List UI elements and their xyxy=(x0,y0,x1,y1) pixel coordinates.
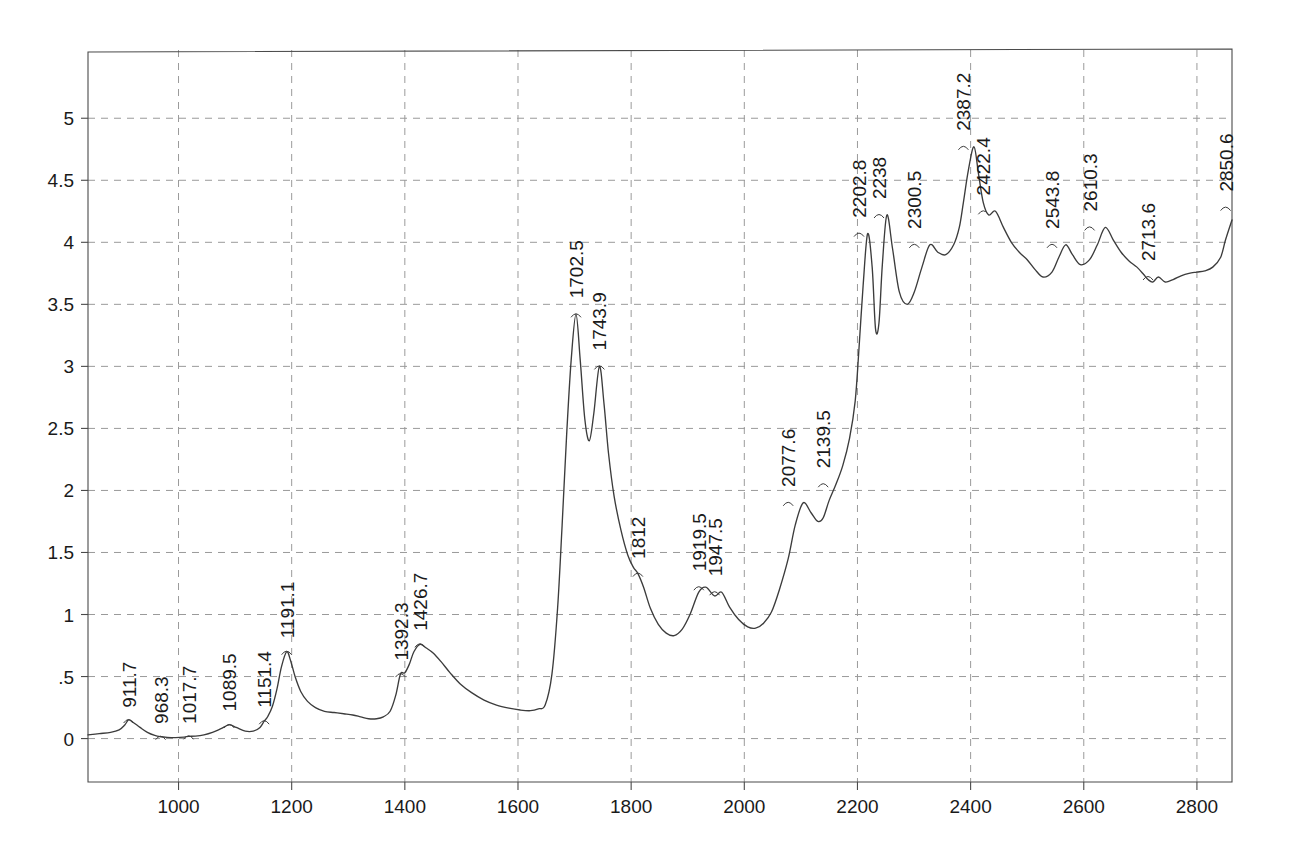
y-tick-label: 3 xyxy=(63,356,74,377)
peak-leader xyxy=(958,146,968,150)
peak-label: 2610.3 xyxy=(1080,153,1101,211)
y-tick-label: 1 xyxy=(63,605,74,626)
spectrum-plot: 0.511.522.533.544.55 1000120014001600180… xyxy=(0,0,1290,849)
spectrum-trace xyxy=(88,147,1232,738)
peak-label: 911.7 xyxy=(119,662,140,708)
x-tick-label: 2600 xyxy=(1063,796,1105,817)
x-tick-label: 2800 xyxy=(1176,796,1218,817)
y-tick-label: 3.5 xyxy=(48,294,74,315)
peak-label: 1947.5 xyxy=(705,518,726,576)
peak-leader xyxy=(874,215,884,219)
peak-label: 1702.5 xyxy=(566,240,587,298)
x-tick-label: 2000 xyxy=(723,796,765,817)
x-tick-label: 1000 xyxy=(157,796,199,817)
y-tick-label: .5 xyxy=(58,667,74,688)
y-tick-label: 1.5 xyxy=(48,542,74,563)
peak-label: 1743.9 xyxy=(589,292,610,350)
spectrum-line xyxy=(88,147,1232,738)
spectrum-chart: 0.511.522.533.544.55 1000120014001600180… xyxy=(0,0,1290,849)
peak-label: 2850.6 xyxy=(1216,133,1237,191)
peak-leader xyxy=(818,484,828,488)
peak-label: 2422.4 xyxy=(973,137,994,196)
peak-label: 2238 xyxy=(869,157,890,199)
x-tick-label: 1600 xyxy=(497,796,539,817)
peak-label: 1812 xyxy=(628,517,649,559)
peak-annotations: 911.7968.31017.71089.51151.41191.11392.3… xyxy=(119,73,1237,740)
peak-leader xyxy=(1085,227,1095,231)
y-tick-label: 0 xyxy=(63,729,74,750)
peak-label: 2300.5 xyxy=(904,171,925,229)
x-axis-ticks: 1000120014001600180020002200240026002800 xyxy=(157,782,1218,817)
peak-label: 2139.5 xyxy=(813,410,834,468)
peak-label: 1151.4 xyxy=(254,651,275,708)
peak-label: 1089.5 xyxy=(219,653,240,711)
y-tick-label: 4.5 xyxy=(48,170,74,191)
peak-label: 2713.6 xyxy=(1138,203,1159,261)
peak-label: 1426.7 xyxy=(410,573,431,631)
peak-label: 2202.8 xyxy=(849,160,870,218)
y-tick-label: 2.5 xyxy=(48,418,74,439)
peak-label: 1191.1 xyxy=(277,582,298,639)
peak-leader xyxy=(909,244,919,248)
y-tick-label: 4 xyxy=(63,232,74,253)
peak-label: 2077.6 xyxy=(778,429,799,487)
peak-label: 1392.3 xyxy=(391,602,412,660)
x-tick-label: 1400 xyxy=(384,796,426,817)
peak-leader xyxy=(783,502,793,506)
peak-label: 2543.8 xyxy=(1042,171,1063,229)
x-tick-label: 2200 xyxy=(836,796,878,817)
y-tick-label: 5 xyxy=(63,108,74,129)
peak-leader xyxy=(1047,244,1057,248)
peak-label: 2387.2 xyxy=(953,73,974,131)
x-tick-label: 2400 xyxy=(949,796,991,817)
y-axis-ticks: 0.511.522.533.544.55 xyxy=(48,108,88,749)
x-tick-label: 1200 xyxy=(271,796,313,817)
peak-label: 1017.7 xyxy=(179,666,200,724)
y-tick-label: 2 xyxy=(63,480,74,501)
peak-leader xyxy=(854,233,864,237)
peak-label: 968.3 xyxy=(151,676,172,724)
peak-leader xyxy=(1221,207,1231,211)
x-tick-label: 1800 xyxy=(610,796,652,817)
